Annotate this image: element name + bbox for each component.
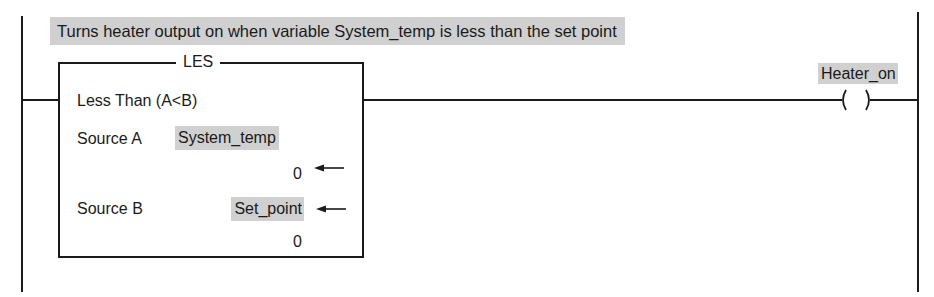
instruction-description: Less Than (A<B)	[77, 91, 197, 111]
left-arrow-icon	[314, 163, 344, 173]
source-b-label: Source B	[77, 199, 143, 219]
rung-wire-left	[22, 99, 59, 101]
source-b-tag[interactable]: Set_point	[231, 197, 304, 221]
left-arrow-icon	[316, 204, 346, 214]
instruction-mnemonic: LES	[176, 53, 220, 71]
source-a-label: Source A	[77, 129, 142, 149]
right-power-rail	[917, 12, 919, 292]
source-a-tag[interactable]: System_temp	[175, 126, 279, 150]
source-b-value: 0	[293, 232, 302, 252]
rung-comment[interactable]: Turns heater output on when variable Sys…	[50, 17, 625, 45]
output-coil-icon[interactable]	[838, 88, 874, 112]
les-instruction-block[interactable]: LES Less Than (A<B) Source A System_temp…	[58, 62, 364, 258]
rung-wire-right	[870, 99, 918, 101]
source-a-value: 0	[293, 164, 302, 184]
rung-wire-middle	[363, 99, 842, 101]
left-power-rail	[21, 16, 23, 292]
output-coil-tag[interactable]: Heater_on	[818, 63, 898, 84]
